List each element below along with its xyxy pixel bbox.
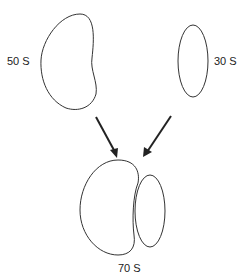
arrow-right-head	[143, 147, 152, 157]
assembled-label: 70 S	[118, 262, 141, 274]
arrow-right	[147, 116, 171, 152]
ribosome-diagram	[0, 0, 247, 280]
assembled-large-part	[80, 160, 138, 255]
small-subunit-shape	[178, 25, 208, 97]
assembled-small-part	[135, 175, 165, 247]
small-subunit-label: 30 S	[214, 55, 237, 67]
large-subunit-label: 50 S	[7, 55, 30, 67]
large-subunit-shape	[41, 14, 96, 109]
arrow-left	[96, 117, 115, 152]
arrow-left-head	[110, 148, 118, 158]
